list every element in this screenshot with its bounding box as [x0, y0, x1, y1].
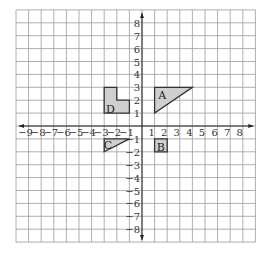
y-tick-label: 6 [134, 44, 140, 55]
y-axis-arrow-down-icon [140, 235, 144, 240]
x-tick-label: 7 [224, 127, 230, 138]
y-tick-label: −5 [125, 186, 140, 197]
shape-label: C [104, 139, 112, 152]
shape-label: D [106, 103, 115, 116]
y-tick-label: 5 [134, 57, 140, 68]
x-tick-label: 3 [174, 127, 180, 138]
y-tick-label: 3 [134, 82, 140, 93]
x-tick-label: 5 [199, 127, 205, 138]
x-tick-label: 4 [186, 127, 192, 138]
x-tick-label: 2 [161, 127, 167, 138]
x-axis-arrow-right-icon [248, 124, 253, 128]
y-tick-label: −4 [125, 173, 140, 184]
y-axis-arrow-up-icon [140, 13, 144, 18]
x-tick-label: 6 [211, 127, 217, 138]
y-tick-label: −2 [125, 147, 140, 158]
shape-b: B [155, 139, 168, 154]
y-tick-label: 2 [134, 95, 140, 106]
coordinate-grid: −9−8−7−6−5−4−3−2−11234567887654321−1−2−3… [0, 0, 267, 256]
y-tick-label: 4 [134, 69, 140, 80]
y-tick-label: 8 [134, 18, 140, 29]
x-tick-label: 1 [148, 127, 154, 138]
y-tick-label: −7 [125, 211, 140, 222]
shape-label: B [157, 141, 165, 154]
y-tick-label: −3 [125, 160, 140, 171]
y-tick-label: 1 [134, 108, 140, 119]
shape-d: D [104, 87, 129, 115]
y-tick-label: −8 [125, 224, 140, 235]
y-tick-label: −6 [125, 198, 140, 209]
y-tick-label: 7 [134, 31, 140, 42]
x-tick-label: 8 [237, 127, 243, 138]
shape-label: A [157, 89, 167, 102]
